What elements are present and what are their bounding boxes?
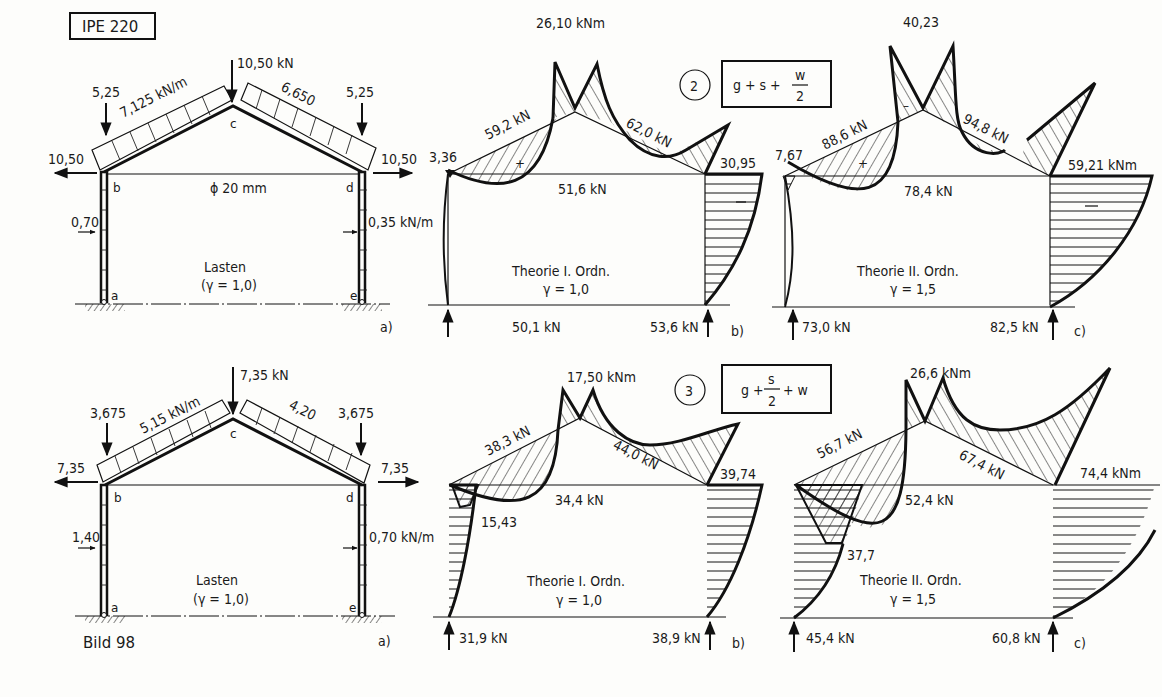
- formula-denominator: 2: [796, 88, 804, 104]
- figure-bild-98: IPE 220: [0, 0, 1162, 697]
- panel-tag-b: b): [732, 635, 745, 651]
- analysis-title: Theorie II. Ordn.: [856, 263, 959, 279]
- loads-gamma: (γ = 1,0): [201, 277, 257, 293]
- node-b: b: [113, 181, 121, 195]
- panel-tag-c: c): [1074, 323, 1086, 339]
- node-d: d: [346, 491, 354, 505]
- load-case-number: 2: [690, 78, 698, 94]
- eave-right-point-load: 5,25: [346, 84, 374, 100]
- ridge-moment: 17,50 kNm: [567, 369, 636, 385]
- node-a: a: [111, 289, 118, 303]
- loads-title: Lasten: [196, 572, 238, 588]
- panel-second-order-row1: 40,23 88,6 kN 94,8 kN 78,4 kN 7,67 59,21…: [772, 14, 1152, 340]
- loads-gamma: (γ = 1,0): [193, 591, 249, 607]
- analysis-gamma: γ = 1,5: [890, 591, 936, 607]
- horizontal-load-left: 7,35: [57, 460, 85, 476]
- eave-right-point-load: 3,675: [338, 405, 374, 421]
- wind-load-right: 0,35 kN/m: [368, 214, 433, 230]
- wind-load-right: 0,70 kN/m: [369, 529, 434, 545]
- node-b: b: [114, 491, 122, 505]
- horizontal-load-right: 7,35: [381, 460, 409, 476]
- rafter-right-udl: 6,650: [279, 78, 318, 109]
- reaction-left: 50,1 kN: [512, 319, 561, 335]
- reaction-left: 73,0 kN: [802, 319, 851, 335]
- right-eave-moment: 74,4 kNm: [1080, 465, 1141, 481]
- ridge-point-load: 7,35 kN: [240, 367, 289, 383]
- sign-minus: –: [903, 99, 909, 113]
- ridge-point-load: 10,50 kN: [237, 55, 294, 71]
- load-case-3: 3 g + s 2 + w: [675, 365, 831, 413]
- formula-suffix: + w: [783, 382, 808, 398]
- row-load-case-2: IPE 220: [48, 13, 1152, 340]
- tie-force: 78,4 kN: [904, 183, 953, 199]
- horizontal-load-left: 10,50: [48, 151, 84, 167]
- analysis-gamma: γ = 1,0: [556, 592, 602, 608]
- figure-caption: Bild 98: [83, 634, 135, 652]
- reaction-right: 60,8 kN: [992, 630, 1041, 646]
- rafter-left-udl: 7,125 kN/m: [117, 73, 190, 121]
- analysis-title: Theorie I. Ordn.: [511, 263, 610, 279]
- node-c: c: [230, 427, 237, 441]
- analysis-title: Theorie II. Ordn.: [859, 572, 962, 588]
- eave-left-point-load: 3,675: [90, 405, 126, 421]
- formula-prefix: g + s +: [733, 77, 781, 93]
- tie-force: 34,4 kN: [555, 492, 604, 508]
- left-eave-moment: 7,67: [775, 147, 803, 163]
- analysis-gamma: γ = 1,5: [890, 281, 936, 297]
- ridge-moment: 40,23: [903, 14, 939, 30]
- tie-force: 51,6 kN: [558, 181, 607, 197]
- ridge-moment: 26,10 kNm: [536, 15, 605, 31]
- wind-load-left: 1,40: [72, 529, 100, 545]
- node-e: e: [350, 289, 357, 303]
- left-eave-moment: 3,36: [429, 149, 457, 165]
- eave-left-point-load: 5,25: [92, 84, 120, 100]
- reaction-right: 53,6 kN: [650, 319, 699, 335]
- panel-first-order-row2: 17,50 kNm 38,3 kN 44,0 kN 34,4 kN 15,43 …: [433, 369, 762, 651]
- sign-plus: +: [858, 157, 868, 171]
- formula-numerator: s: [768, 371, 775, 387]
- node-a: a: [111, 601, 118, 615]
- panel-first-order-row1: 26,10 kNm 59,2 kN 62,0 kN 51,6 kN 3,36 3…: [428, 15, 762, 339]
- section-label: IPE 220: [82, 18, 138, 36]
- node-c: c: [230, 117, 237, 131]
- load-case-number: 3: [685, 383, 693, 399]
- reaction-right: 82,5 kN: [990, 319, 1039, 335]
- ridge-moment: 26,6 kNm: [910, 365, 971, 381]
- node-d: d: [346, 181, 354, 195]
- right-eave-moment: 39,74: [720, 466, 756, 482]
- left-column-moment: 15,43: [481, 514, 517, 530]
- row-load-case-3: 3,675 3,675 7,35 kN 5,15 kN/m 4,20 7,35 …: [55, 365, 1160, 652]
- panel-loads-row1: IPE 220: [48, 13, 433, 335]
- rafter-right-udl: 4,20: [287, 396, 319, 423]
- reaction-left: 31,9 kN: [459, 630, 508, 646]
- panel-tag-a: a): [380, 319, 393, 335]
- formula-numerator: w: [795, 67, 805, 83]
- analysis-title: Theorie I. Ordn.: [526, 573, 625, 589]
- load-case-2: 2 g + s + w 2: [680, 61, 831, 107]
- node-e: e: [349, 601, 356, 615]
- reaction-right: 38,9 kN: [652, 630, 701, 646]
- right-eave-moment: 59,21 kNm: [1068, 157, 1137, 173]
- left-column-moment: 37,7: [847, 547, 875, 563]
- tie-rod-label: ϕ 20 mm: [210, 180, 267, 196]
- right-eave-moment: 30,95: [720, 155, 756, 171]
- horizontal-load-right: 10,50: [381, 151, 417, 167]
- panel-tag-c: c): [1074, 635, 1086, 651]
- panel-tag-a: a): [378, 633, 391, 649]
- reaction-left: 45,4 kN: [806, 630, 855, 646]
- panel-tag-b: b): [731, 323, 744, 339]
- sign-plus: +: [515, 157, 525, 171]
- tie-force: 52,4 kN: [905, 492, 954, 508]
- formula-prefix: g +: [741, 382, 764, 398]
- analysis-gamma: γ = 1,0: [543, 281, 589, 297]
- loads-title: Lasten: [204, 259, 246, 275]
- formula-denominator: 2: [768, 393, 776, 409]
- panel-second-order-row2: 26,6 kNm 56,7 kN 67,4 kN 52,4 kN 37,7 74…: [780, 365, 1160, 652]
- panel-loads-row2: 3,675 3,675 7,35 kN 5,15 kN/m 4,20 7,35 …: [55, 367, 434, 652]
- wind-load-left: 0,70: [71, 214, 99, 230]
